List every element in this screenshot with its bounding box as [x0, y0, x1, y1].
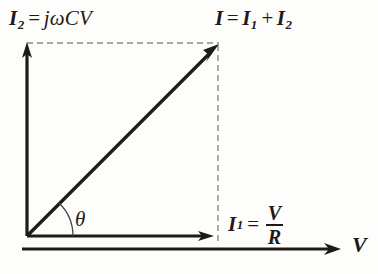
label-i-plus: +: [258, 6, 277, 30]
label-i1-equals: =: [244, 214, 263, 235]
label-i1-expression: I1= V R: [228, 203, 283, 247]
label-i-total-expression: I=I1+I2: [215, 8, 293, 31]
label-i1-denominator: R: [266, 226, 283, 247]
resultant-vector-line: [27, 53, 210, 236]
label-i2-equals: =: [25, 6, 44, 30]
label-i1-fraction: V R: [266, 203, 283, 247]
theta-angle-arc: [59, 203, 73, 236]
label-i1-numerator: V: [266, 203, 283, 224]
label-i-equals: =: [223, 6, 242, 30]
label-i2-symbol: I: [9, 6, 17, 30]
label-i-symbol: I: [215, 6, 223, 30]
label-i-term1-subscript: 1: [250, 17, 258, 32]
phasor-diagram-canvas: [0, 0, 378, 274]
label-i1-symbol: I: [228, 214, 236, 235]
label-v-axis: V: [352, 234, 367, 256]
label-i-term2-subscript: 2: [285, 17, 293, 32]
label-i2-rhs: jωCV: [44, 6, 92, 30]
label-i-term2: I: [277, 6, 285, 30]
label-i2-expression: I2=jωCV: [9, 8, 92, 31]
phasor-diagram-figure: I2=jωCV I=I1+I2 θ I1= V R V: [0, 0, 378, 274]
label-i2-subscript: 2: [17, 17, 25, 32]
label-theta: θ: [75, 209, 85, 230]
label-i1-subscript: 1: [236, 218, 244, 231]
